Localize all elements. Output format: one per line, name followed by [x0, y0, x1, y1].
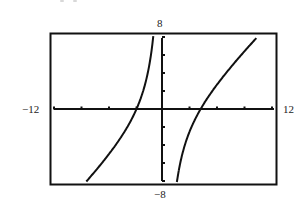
graph-plot	[0, 0, 304, 210]
axes	[54, 37, 274, 181]
